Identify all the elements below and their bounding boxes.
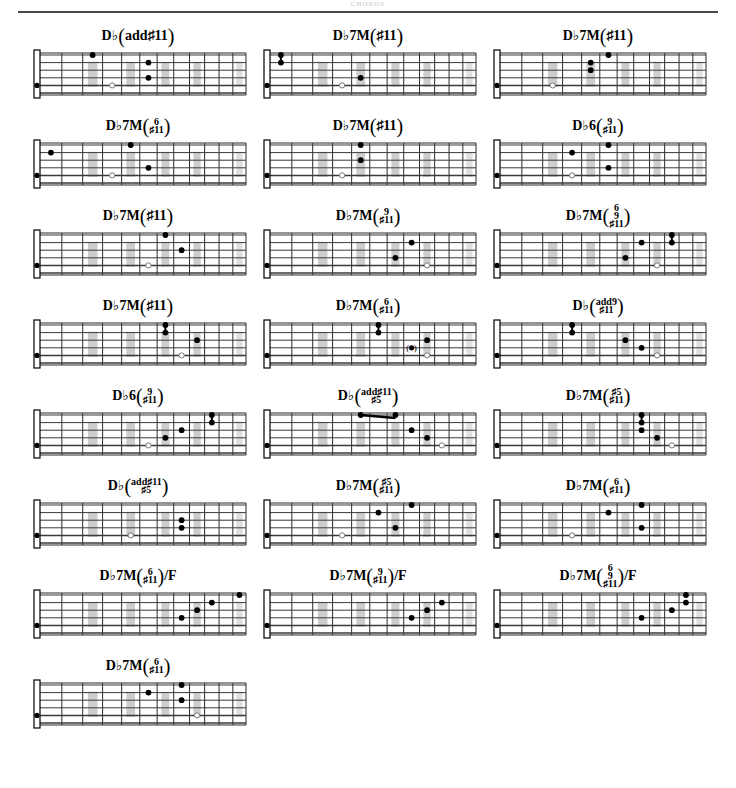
note-dot-open xyxy=(146,443,151,448)
note-dot-filled xyxy=(179,697,185,703)
fret-inlay-marker xyxy=(548,602,558,627)
note-dot-filled xyxy=(209,412,215,418)
chord-diagram-d4[interactable]: D♭7M(6♯11) xyxy=(22,114,254,204)
fretboard-svg xyxy=(490,589,708,639)
note-dot-filled xyxy=(409,427,415,433)
fretboard-svg xyxy=(30,409,248,459)
chord-diagram-d16[interactable]: D♭(add♯11♯5) xyxy=(22,474,254,564)
note-dot-filled xyxy=(424,435,430,441)
fret-inlay-marker xyxy=(193,242,200,267)
nut-root-dot xyxy=(494,263,499,268)
note-dot-filled xyxy=(409,502,415,508)
chord-name: D♭7M(9♯11)/F xyxy=(252,564,484,590)
chord-diagram-d19[interactable]: D♭7M(6♯11)/F xyxy=(22,564,254,654)
chord-root: D xyxy=(106,118,116,133)
fretboard xyxy=(260,229,478,279)
fret-inlay-marker xyxy=(193,152,200,177)
nut-root-dot xyxy=(264,533,269,538)
chord-diagram-d1[interactable]: D♭(add♯11) xyxy=(22,24,254,114)
fret-inlay-marker xyxy=(193,422,200,447)
nut xyxy=(264,140,270,188)
chord-paren-close: ) xyxy=(624,385,631,407)
chord-diagram-d2[interactable]: D♭7M(♯11) xyxy=(252,24,484,114)
chord-diagram-d6[interactable]: D♭6(9♯11) xyxy=(482,114,714,204)
chord-diagram-d11[interactable]: D♭7M(6♯11)() xyxy=(252,294,484,384)
note-paren-right: ) xyxy=(414,343,417,353)
fretboard-svg: () xyxy=(260,319,478,369)
note-dot-open xyxy=(110,173,115,178)
fret-inlay-marker xyxy=(161,242,169,267)
chord-paren-close: ) xyxy=(627,25,634,47)
chord-name: D♭7M(6♯11) xyxy=(482,474,714,500)
chord-extension-bottom: ♯11 xyxy=(603,126,617,134)
chord-paren-open: ( xyxy=(143,655,150,677)
fret-inlay-marker xyxy=(466,152,472,177)
chord-diagram-d14[interactable]: D♭(add♯11♯5) xyxy=(252,384,484,474)
chord-extension-bottom: ♯11 xyxy=(143,576,157,584)
fretboard xyxy=(260,139,478,189)
fret-inlay-marker xyxy=(356,512,365,537)
nut-root-dot xyxy=(34,173,39,178)
note-dot-filled xyxy=(90,52,96,58)
note-dot-filled xyxy=(639,502,645,508)
chord-root: D xyxy=(572,298,582,313)
chord-diagram-d12[interactable]: D♭(add9♯11) xyxy=(482,294,714,384)
chord-diagram-d3[interactable]: D♭7M(♯11) xyxy=(482,24,714,114)
chord-diagram-d20[interactable]: D♭7M(9♯11)/F xyxy=(252,564,484,654)
fret-inlay-marker xyxy=(126,152,135,177)
chord-diagram-d15[interactable]: D♭7M(♯5♯11) xyxy=(482,384,714,474)
chord-name: D♭7M(♯11) xyxy=(252,24,484,50)
chord-root: D xyxy=(563,28,573,43)
chord-diagram-d8[interactable]: D♭7M(9♯11) xyxy=(252,204,484,294)
chord-diagram-d5[interactable]: D♭7M(♯11) xyxy=(252,114,484,204)
chord-diagram-d13[interactable]: D♭6(9♯11) xyxy=(22,384,254,474)
note-dot-filled xyxy=(358,75,364,81)
chord-diagram-d9[interactable]: D♭7M(69♯11) xyxy=(482,204,714,294)
chord-extension-bottom: ♯11 xyxy=(603,580,617,588)
chord-diagram-d17[interactable]: D♭7M(♯5♯11) xyxy=(252,474,484,564)
chord-root: D xyxy=(103,208,113,223)
note-dot-filled xyxy=(179,682,185,688)
fretboard xyxy=(490,139,708,189)
fret-inlay-marker xyxy=(88,242,98,267)
fret-inlay-marker xyxy=(696,602,702,627)
note-dot-filled xyxy=(639,420,645,426)
nut-root-dot xyxy=(264,353,269,358)
fret-inlay-marker xyxy=(356,62,365,87)
note-dot-filled xyxy=(654,435,660,441)
fretboard xyxy=(260,409,478,459)
fret-inlay-marker xyxy=(236,422,242,447)
chord-quality: 7M xyxy=(349,28,369,43)
note-dot-filled xyxy=(606,165,612,171)
note-dot-filled xyxy=(237,592,243,598)
chord-row: D♭6(9♯11)D♭(add♯11♯5)D♭7M(♯5♯11) xyxy=(0,384,736,474)
chord-diagram-d22[interactable]: D♭7M(6♯11) xyxy=(22,654,254,744)
chord-paren-open: ( xyxy=(373,205,380,227)
note-dot-filled xyxy=(669,240,675,246)
fret-inlay-marker xyxy=(126,332,135,357)
chord-extension: ♯11 xyxy=(376,28,396,43)
nut xyxy=(34,500,40,548)
chord-name: D♭7M(69♯11)/F xyxy=(482,564,714,590)
fret-inlay-marker xyxy=(696,332,702,357)
fret-inlay-marker xyxy=(653,422,660,447)
chord-extension-bottom: ♯11 xyxy=(143,396,157,404)
chord-row: D♭7M(6♯11)D♭7M(♯11)D♭6(9♯11) xyxy=(0,114,736,204)
nut-root-dot xyxy=(34,713,39,718)
chord-name: D♭7M(♯5♯11) xyxy=(482,384,714,410)
chord-root: D xyxy=(108,478,118,493)
chord-diagram-d18[interactable]: D♭7M(6♯11) xyxy=(482,474,714,564)
chord-quality: 7M xyxy=(582,388,602,403)
chord-diagram-d10[interactable]: D♭7M(♯11) xyxy=(22,294,254,384)
fret-inlay-marker xyxy=(548,242,558,267)
chord-root: D xyxy=(566,478,576,493)
chord-diagram-d7[interactable]: D♭7M(♯11) xyxy=(22,204,254,294)
chord-paren-close: ) xyxy=(624,205,631,227)
fret-inlay-marker xyxy=(161,332,169,357)
chord-extension-bottom: ♯5 xyxy=(361,396,392,404)
note-paren-left: ( xyxy=(406,343,409,353)
chord-diagram-d21[interactable]: D♭7M(69♯11)/F xyxy=(482,564,714,654)
chord-root: D xyxy=(106,658,116,673)
fretboard-svg xyxy=(30,499,248,549)
fret-inlay-marker xyxy=(318,242,328,267)
